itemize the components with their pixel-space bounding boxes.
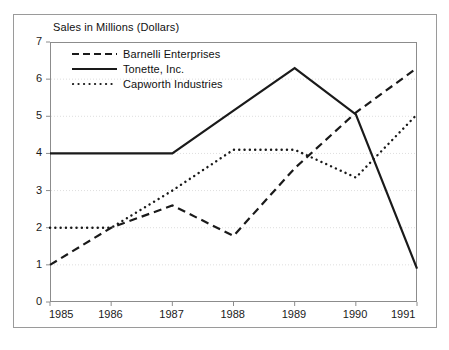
- legend-swatch-dashed-icon: [72, 49, 117, 59]
- legend-swatch-solid-icon: [72, 64, 117, 74]
- y-tick-label: 6: [20, 72, 42, 84]
- y-tick-label: 5: [20, 109, 42, 121]
- y-tick-label: 2: [20, 221, 42, 233]
- legend-item-tonette: Tonette, Inc.: [72, 62, 223, 76]
- x-tick-label: 1991: [391, 308, 415, 320]
- legend-swatch-dotted-icon: [72, 79, 117, 89]
- x-tick-label: 1987: [159, 308, 183, 320]
- series-lines: [50, 68, 417, 269]
- chart-legend: Barnelli Enterprises Tonette, Inc. Capwo…: [72, 47, 223, 92]
- chart-page: Sales in Millions (Dollars) 76543210 198…: [0, 0, 449, 350]
- x-tick-label: 1988: [221, 308, 245, 320]
- gridlines: [51, 79, 416, 265]
- legend-label-capworth: Capworth Industries: [123, 78, 223, 90]
- x-tick-label: 1989: [282, 308, 306, 320]
- series-line-barnelli-enterprises: [50, 68, 417, 265]
- series-line-tonette-inc: [50, 68, 417, 269]
- legend-label-tonette: Tonette, Inc.: [123, 63, 184, 75]
- x-tick-label: 1986: [98, 308, 122, 320]
- chart-canvas: [0, 0, 449, 350]
- y-tick-label: 0: [20, 295, 42, 307]
- y-tick-label: 4: [20, 146, 42, 158]
- legend-label-barnelli: Barnelli Enterprises: [123, 48, 220, 60]
- legend-item-barnelli: Barnelli Enterprises: [72, 47, 223, 61]
- x-tick-label: 1990: [343, 308, 367, 320]
- x-tick-label: 1985: [49, 308, 73, 320]
- y-tick-label: 7: [20, 35, 42, 47]
- y-tick-label: 3: [20, 184, 42, 196]
- legend-item-capworth: Capworth Industries: [72, 77, 223, 91]
- y-tick-label: 1: [20, 258, 42, 270]
